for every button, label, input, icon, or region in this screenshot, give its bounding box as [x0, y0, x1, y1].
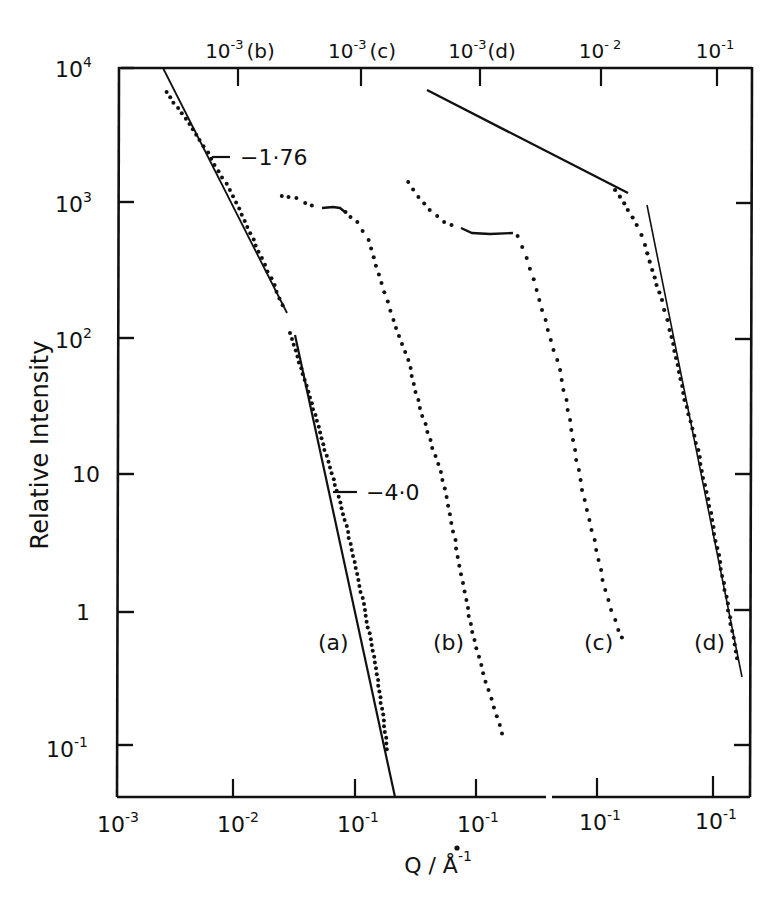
series-c-points — [406, 180, 624, 640]
slope-label-1.76: −1·76 — [240, 145, 307, 170]
y-tick-label: 102 — [55, 325, 92, 353]
y-tick-label: 10 — [72, 462, 100, 487]
curve-label-c: (c) — [584, 630, 613, 655]
series-d-points — [613, 188, 739, 660]
x-tick-label: 10-1 — [695, 806, 737, 834]
x-axis-label-text: Q / Å-1 — [404, 848, 472, 878]
x-top-tick-label: 10-3(b) — [205, 37, 275, 63]
x-axis-label: Q / Å-1 — [404, 845, 472, 878]
x-tick-labels-bottom: 10-3 10-2 10-1 10-1 10-1 10-1 — [97, 806, 737, 837]
y-tick-label: 10-1 — [46, 734, 88, 762]
fit-line-d-shallow — [427, 90, 628, 193]
x-tick-labels-top: 10-3(b) 10-3(c) 10-3(d) 10- 2 10-1 — [205, 37, 734, 63]
x-tick-label: 10-1 — [457, 809, 499, 837]
y-tick-label: 1 — [76, 600, 90, 625]
annotations: −1·76 −4·0 (a) (b) (c) (d) — [240, 145, 725, 655]
curve-label-b: (b) — [433, 630, 464, 655]
x-tick-label: 10-1 — [337, 809, 379, 837]
x-top-tick-label: 10-3(d) — [448, 37, 516, 63]
y-tick-label: 103 — [55, 189, 92, 217]
x-axis-ticks-bottom — [233, 776, 713, 797]
fit-line-d-steep — [647, 205, 742, 677]
angstrom-ring-dot — [454, 845, 459, 850]
fit-lines — [163, 68, 742, 797]
y-axis-label: Relative Intensity — [26, 341, 54, 550]
x-axis-ticks-top — [238, 68, 717, 86]
x-tick-label: 10-3 — [97, 809, 139, 837]
curve-label-d: (d) — [694, 630, 725, 655]
series-b-points — [280, 194, 504, 736]
fit-line-a-slope-4.0 — [295, 335, 395, 797]
slope-label-4.0: −4·0 — [366, 480, 419, 505]
series-b-plateau — [322, 207, 345, 212]
log-log-chart: 104 103 102 10 1 10-1 10-3 10-2 10-1 10-… — [0, 0, 780, 901]
y-tick-labels: 104 103 102 10 1 10-1 — [46, 54, 100, 762]
x-tick-label: 10-1 — [579, 807, 621, 835]
y-tick-label: 104 — [55, 54, 92, 82]
x-top-tick-label: 10-1 — [696, 37, 734, 63]
fit-line-a-slope-1.76 — [163, 68, 287, 313]
plot-frame — [117, 67, 752, 797]
curve-label-a: (a) — [318, 630, 349, 655]
series-a-points — [165, 90, 389, 751]
x-top-tick-label: 10-3(c) — [328, 37, 396, 63]
plateau-segments — [322, 207, 513, 234]
x-top-tick-label: 10- 2 — [579, 37, 622, 63]
x-tick-label: 10-2 — [217, 809, 259, 837]
series-c-plateau — [461, 228, 513, 234]
